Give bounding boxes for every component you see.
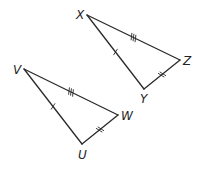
congruence-tick-mark <box>73 89 74 96</box>
vertex-label-x: X <box>75 8 85 22</box>
congruence-tick-mark <box>135 35 136 42</box>
congruence-tick-mark <box>133 34 134 41</box>
triangle-xyz: XZY <box>75 8 192 106</box>
triangle-vuw: VWU <box>13 63 134 162</box>
triangle-diagram: XZYVWU <box>0 0 201 170</box>
vertex-label-u: U <box>78 148 87 162</box>
side-uw <box>82 115 118 144</box>
side-yz <box>144 60 180 89</box>
congruence-tick-mark <box>71 88 72 95</box>
vertex-label-z: Z <box>182 54 192 68</box>
congruence-tick-mark <box>69 87 70 94</box>
vertex-label-y: Y <box>140 92 149 106</box>
vertex-label-w: W <box>121 109 134 123</box>
vertex-label-v: V <box>13 63 22 77</box>
congruence-tick-mark <box>131 33 132 40</box>
